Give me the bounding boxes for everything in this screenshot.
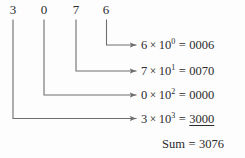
row-base: 10 bbox=[159, 88, 172, 102]
expansion-row-ones: 6×100=0006 bbox=[141, 38, 214, 52]
connector-ones bbox=[107, 20, 137, 45]
place-value-expansion-diagram: 3 0 7 6 6×100=0006 7×101=0070 0×102=0000 bbox=[0, 0, 245, 158]
multiplication-sign: × bbox=[147, 113, 159, 125]
connector-thousands bbox=[13, 20, 136, 119]
multiplication-sign: × bbox=[147, 89, 159, 101]
sum-value: 3076 bbox=[199, 137, 224, 151]
row-value: 0006 bbox=[189, 38, 214, 52]
equals-sign: = bbox=[175, 112, 189, 126]
row-value: 3000 bbox=[189, 112, 214, 126]
expansion-row-thousands: 3×103=3000 bbox=[141, 112, 214, 126]
row-value: 0000 bbox=[189, 88, 214, 102]
row-base: 10 bbox=[159, 112, 172, 126]
sum-row: Sum=3076 bbox=[162, 137, 224, 151]
multiplication-sign: × bbox=[147, 65, 159, 77]
connector-lines bbox=[0, 0, 245, 158]
connector-hundreds bbox=[44, 20, 136, 95]
expansion-row-tens: 7×101=0070 bbox=[141, 64, 214, 78]
expansion-row-hundreds: 0×102=0000 bbox=[141, 88, 214, 102]
equals-sign: = bbox=[175, 38, 189, 52]
row-value: 0070 bbox=[189, 64, 214, 78]
sum-label: Sum bbox=[162, 137, 185, 151]
equals-sign: = bbox=[175, 88, 189, 102]
equals-sign: = bbox=[185, 137, 199, 151]
multiplication-sign: × bbox=[147, 39, 159, 51]
row-base: 10 bbox=[159, 64, 172, 78]
equals-sign: = bbox=[175, 64, 189, 78]
row-base: 10 bbox=[159, 38, 172, 52]
